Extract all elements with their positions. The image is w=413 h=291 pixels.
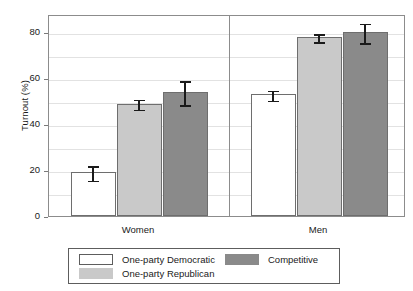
y-tick-mark [44, 217, 48, 218]
legend-label: Competitive [268, 254, 318, 265]
y-tick-label: 20 [14, 165, 40, 175]
error-bar-stem [184, 81, 185, 106]
y-tick-label: 60 [14, 73, 40, 83]
error-bar [297, 34, 342, 43]
legend-swatch [79, 268, 113, 279]
bar [343, 32, 388, 216]
y-tick-label: 0 [14, 211, 40, 221]
legend-label: One-party Republican [122, 268, 214, 279]
legend-swatch [225, 254, 259, 265]
plot-area [48, 15, 405, 217]
legend: One-party DemocraticOne-party Republican… [68, 248, 340, 284]
error-bar-stem [92, 166, 93, 182]
legend-item[interactable]: One-party Democratic [79, 254, 215, 265]
error-bar-cap-bottom [314, 42, 325, 43]
bar-chart-figure: Turnout (%) 020406080 WomenMen One-party… [0, 0, 413, 291]
bar [117, 104, 162, 216]
panel-divider [229, 16, 230, 216]
error-bar-cap-top [360, 24, 371, 25]
bar [251, 94, 296, 216]
error-bar-cap-bottom [268, 101, 279, 102]
y-tick-label: 40 [14, 119, 40, 129]
bar [297, 37, 342, 216]
error-bar-cap-top [180, 81, 191, 82]
error-bar-cap-bottom [88, 181, 99, 182]
legend-label: One-party Democratic [122, 254, 215, 265]
error-bar-cap-bottom [360, 43, 371, 44]
y-tick-label: 80 [14, 27, 40, 37]
error-bar-cap-top [314, 34, 325, 35]
error-bar-cap-top [268, 91, 279, 92]
error-bar [251, 91, 296, 102]
x-group-label-men: Men [268, 224, 368, 235]
error-bar [343, 24, 388, 45]
x-group-label-women: Women [88, 224, 188, 235]
error-bar-cap-bottom [134, 110, 145, 111]
bar [163, 92, 208, 216]
legend-item[interactable]: One-party Republican [79, 268, 214, 279]
error-bar [163, 81, 208, 106]
error-bar-stem [364, 24, 365, 45]
error-bar-cap-top [134, 100, 145, 101]
legend-swatch [79, 254, 113, 265]
error-bar [117, 100, 162, 111]
legend-item[interactable]: Competitive [225, 254, 318, 265]
y-axis-title: Turnout (%) [19, 26, 30, 186]
error-bar-cap-top [88, 166, 99, 167]
error-bar-cap-bottom [180, 105, 191, 106]
error-bar [71, 166, 116, 182]
